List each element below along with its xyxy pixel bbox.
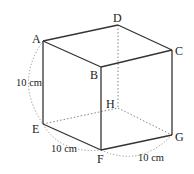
dimension-label-EF: 10 cm xyxy=(51,143,77,154)
edge-DA xyxy=(43,25,118,41)
edge-HG xyxy=(118,108,172,135)
edge-FG xyxy=(101,135,172,150)
vertex-label-E: E xyxy=(32,122,39,136)
vertex-label-C: C xyxy=(175,44,183,58)
edge-BC xyxy=(101,50,172,67)
dimension-label-AE: 10 cm xyxy=(16,77,42,88)
vertex-label-A: A xyxy=(32,32,41,46)
vertex-label-B: B xyxy=(90,68,98,82)
dimension-label-FG: 10 cm xyxy=(138,152,164,163)
edge-CD xyxy=(118,25,172,50)
vertex-label-H: H xyxy=(106,97,115,111)
edge-AB xyxy=(43,41,101,67)
vertex-label-D: D xyxy=(113,11,122,25)
vertex-label-F: F xyxy=(97,152,104,166)
vertex-label-G: G xyxy=(175,130,184,144)
cube-diagram: A B C D E F G H 10 cm 10 cm 10 cm xyxy=(0,0,194,174)
